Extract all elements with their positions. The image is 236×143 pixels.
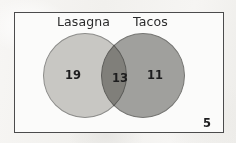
count-intersection: 13: [112, 71, 128, 85]
set-label-lasagna: Lasagna: [57, 14, 110, 29]
venn-diagram-figure: Lasagna Tacos 19 13 11 5: [0, 0, 236, 143]
count-tacos-only: 11: [147, 68, 163, 82]
set-label-tacos: Tacos: [133, 14, 168, 29]
count-outside-sets: 5: [203, 116, 211, 130]
count-lasagna-only: 19: [65, 68, 81, 82]
